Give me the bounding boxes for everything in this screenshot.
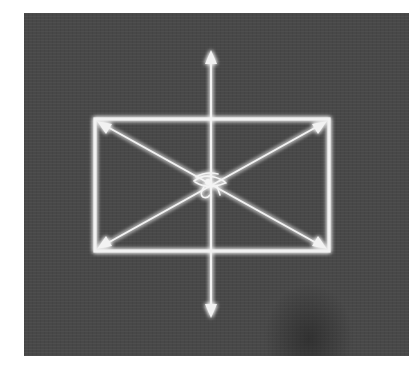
arrowhead-bottom-right-icon [312,236,327,249]
arrowhead-top-left-icon [97,121,112,134]
arrowhead-up-icon [205,50,217,64]
glowing-diagram [0,0,420,373]
arrowhead-top-right-icon [312,121,327,134]
arrowhead-down-icon [205,304,217,318]
arrowhead-bottom-left-icon [97,236,112,249]
